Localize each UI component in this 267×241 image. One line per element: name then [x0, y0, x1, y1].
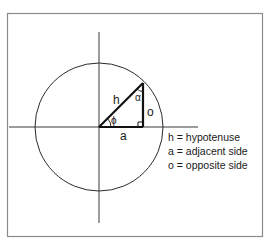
legend-item-opposite: o = opposite side [168, 159, 248, 171]
legend-item-adjacent: a = adjacent side [168, 145, 248, 157]
diagram-canvas: h a o ϕ α h = hypotenuse a = adjacent si… [0, 0, 267, 241]
label-alpha: α [135, 92, 141, 103]
label-opposite: o [147, 105, 154, 119]
label-hypotenuse: h [113, 93, 120, 107]
legend-item-hypotenuse: h = hypotenuse [168, 131, 240, 143]
right-triangle [99, 83, 143, 127]
label-phi: ϕ [111, 115, 117, 126]
label-adjacent: a [120, 129, 127, 143]
legend: h = hypotenuse a = adjacent side o = opp… [168, 131, 248, 171]
frame-border [8, 14, 263, 237]
hypotenuse-side [99, 83, 143, 127]
